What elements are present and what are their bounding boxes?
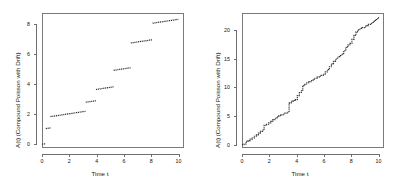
x-tick xyxy=(324,154,325,157)
y-tick xyxy=(234,145,237,146)
x-tick-label: 8 xyxy=(141,158,161,164)
y-tick xyxy=(234,87,237,88)
x-tick xyxy=(69,154,70,157)
x-axis-line xyxy=(242,154,379,155)
x-tick-label: 6 xyxy=(114,158,134,164)
y-tick xyxy=(234,30,237,31)
x-tick-label: 4 xyxy=(87,158,107,164)
y-tick xyxy=(34,24,37,25)
y-tick xyxy=(34,114,37,115)
x-tick-label: 2 xyxy=(59,158,79,164)
x-tick xyxy=(124,154,125,157)
chart-panel-left: 024681002468 Time t A(t) (Compound Poiss… xyxy=(0,0,200,192)
x-tick xyxy=(351,154,352,157)
x-tick xyxy=(297,154,298,157)
x-tick-label: 8 xyxy=(341,158,361,164)
x-tick-label: 2 xyxy=(259,158,279,164)
x-tick xyxy=(179,154,180,157)
y-tick-label: 20 xyxy=(216,27,230,33)
x-tick xyxy=(269,154,270,157)
x-tick-label: 6 xyxy=(314,158,334,164)
x-tick-label: 4 xyxy=(287,158,307,164)
y-axis-label-left: A(t) (Compound Poisson with Drift) xyxy=(14,52,21,148)
x-tick xyxy=(379,154,380,157)
x-axis-label-left: Time t xyxy=(0,170,200,177)
x-tick xyxy=(42,154,43,157)
y-tick-label: 8 xyxy=(16,21,30,27)
y-tick xyxy=(234,116,237,117)
x-tick-label: 0 xyxy=(32,158,52,164)
x-tick-label: 10 xyxy=(169,158,189,164)
y-tick xyxy=(34,84,37,85)
x-tick xyxy=(151,154,152,157)
x-tick xyxy=(97,154,98,157)
y-tick xyxy=(234,59,237,60)
y-tick xyxy=(34,54,37,55)
x-axis-label-right: Time t xyxy=(200,170,400,177)
y-axis-label-right: A(t) (Compound Poisson with Drift) xyxy=(214,52,221,148)
x-tick-label: 0 xyxy=(232,158,252,164)
x-tick-label: 10 xyxy=(369,158,389,164)
y-tick xyxy=(34,144,37,145)
chart-panel-right: 024681005101520 Time t A(t) (Compound Po… xyxy=(200,0,400,192)
x-tick xyxy=(242,154,243,157)
x-axis-line xyxy=(42,154,179,155)
figure-two-panel-compound-poisson: 024681002468 Time t A(t) (Compound Poiss… xyxy=(0,0,400,192)
